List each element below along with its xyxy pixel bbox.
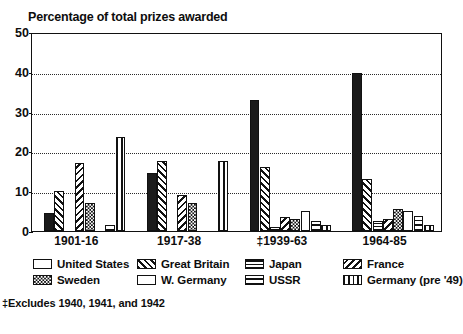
bar	[75, 163, 85, 231]
legend-item: W. Germany	[137, 274, 226, 286]
solid-swatch-icon	[33, 259, 52, 269]
bar	[424, 225, 434, 231]
vertical-swatch-icon	[343, 275, 362, 285]
bar	[393, 209, 403, 231]
footnote: ‡Excludes 1940, 1941, and 1942	[2, 297, 165, 309]
x-tick-label: 1964-85	[363, 234, 407, 248]
legend-item: USSR	[245, 274, 301, 286]
legend-item: Japan	[245, 258, 302, 270]
y-axis: 50403020100	[0, 33, 29, 232]
legend-label: USSR	[269, 274, 301, 286]
bar	[280, 217, 290, 231]
horizontal-swatch-icon	[245, 275, 264, 285]
legend-label: United States	[57, 258, 129, 270]
bar	[290, 219, 300, 231]
bar	[85, 203, 95, 231]
bar	[352, 73, 362, 231]
bar	[177, 195, 187, 231]
legend-item: Great Britain	[137, 258, 229, 270]
diagonal-forward-swatch-icon	[137, 259, 156, 269]
legend-item: France	[343, 258, 404, 270]
bar	[321, 225, 331, 231]
bar	[260, 167, 270, 231]
bar	[105, 225, 115, 231]
bar-group	[238, 34, 341, 231]
bar	[250, 100, 260, 231]
legend-label: Japan	[269, 258, 302, 270]
diagonal-back-swatch-icon	[343, 259, 362, 269]
bar-group	[340, 34, 443, 231]
y-tick-label-0: 0	[3, 226, 29, 239]
y-tick-label-10: 10	[3, 186, 29, 199]
bar	[116, 137, 126, 231]
x-axis: 1901-161917-38‡1939-631964-85	[31, 234, 442, 252]
bar	[373, 221, 383, 231]
y-tick-label-20: 20	[3, 146, 29, 159]
bar	[218, 161, 228, 231]
y-tick-label-40: 40	[3, 67, 29, 80]
legend-label: W. Germany	[161, 274, 226, 286]
legend-label: Sweden	[57, 274, 100, 286]
chart-title: Percentage of total prizes awarded	[28, 10, 228, 24]
bar	[311, 221, 321, 231]
bar	[44, 213, 54, 231]
legend-item: United States	[33, 258, 129, 270]
bar-group	[32, 34, 135, 231]
x-tick-label: 1901-16	[54, 234, 98, 248]
legend-item: Sweden	[33, 274, 100, 286]
bar	[147, 173, 157, 231]
y-tick-label-50: 50	[3, 27, 29, 40]
x-tick-label: ‡1939-63	[257, 234, 308, 248]
bar	[403, 211, 413, 231]
y-tick-mark-0	[29, 232, 33, 233]
chart-legend: United StatesGreat BritainJapanFranceSwe…	[33, 258, 445, 292]
bar-group	[135, 34, 238, 231]
bar	[414, 216, 424, 231]
bar	[301, 211, 311, 231]
x-tick-label: 1917-38	[157, 234, 201, 248]
bar	[188, 203, 198, 231]
bar	[157, 161, 167, 231]
checker-swatch-icon	[33, 275, 52, 285]
bar	[362, 179, 372, 231]
plot-area	[31, 33, 442, 232]
empty-swatch-icon	[137, 275, 156, 285]
bar	[270, 227, 280, 231]
y-tick-label-30: 30	[3, 106, 29, 119]
bar	[54, 191, 64, 231]
legend-label: France	[367, 258, 404, 270]
bar	[383, 219, 393, 231]
legend-label: Great Britain	[161, 258, 229, 270]
grid-swatch-icon	[245, 259, 264, 269]
legend-item: Germany (pre '49)	[343, 274, 463, 286]
legend-label: Germany (pre '49)	[367, 274, 463, 286]
